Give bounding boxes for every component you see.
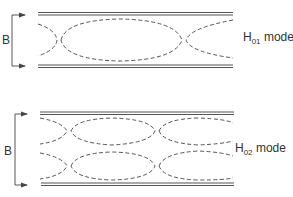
h01-mode-suffix: mode bbox=[261, 30, 293, 44]
h01-mode-figure bbox=[12, 13, 233, 68]
h01-mode-prefix: H bbox=[243, 30, 252, 44]
top-waveguide-lower-wall bbox=[38, 65, 233, 68]
top-field-lines bbox=[38, 19, 233, 61]
h01-mode-subscript: 01 bbox=[252, 37, 261, 46]
h01-mode-label: H01 mode bbox=[243, 31, 293, 46]
bottom-waveguide-lower-wall bbox=[41, 183, 234, 186]
h02-mode-label: H02 mode bbox=[235, 142, 286, 157]
bottom-dimension-bracket bbox=[15, 114, 27, 185]
bottom-waveguide-upper-wall bbox=[40, 112, 234, 115]
h02-mode-figure bbox=[15, 112, 234, 186]
top-dimension-label: B bbox=[2, 34, 10, 46]
top-waveguide-upper-wall bbox=[38, 13, 233, 16]
bottom-dimension-label: B bbox=[4, 145, 12, 157]
h02-mode-suffix: mode bbox=[253, 141, 286, 155]
h02-mode-prefix: H bbox=[235, 141, 244, 155]
bottom-field-lines bbox=[40, 118, 233, 180]
h02-mode-subscript: 02 bbox=[244, 148, 253, 157]
top-dimension-bracket bbox=[12, 15, 25, 66]
